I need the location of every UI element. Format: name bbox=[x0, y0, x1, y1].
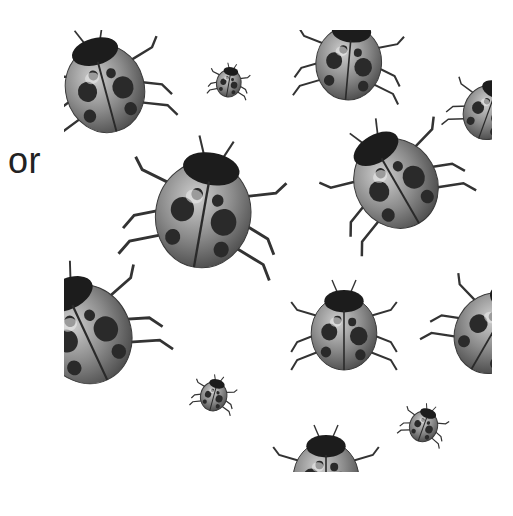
ladybug bbox=[119, 125, 292, 280]
ladybug bbox=[420, 252, 492, 399]
ladybug bbox=[273, 425, 379, 472]
ladybug-pattern bbox=[64, 30, 492, 472]
ladybug bbox=[64, 30, 178, 148]
ladybug bbox=[189, 370, 239, 416]
ladybug bbox=[291, 280, 397, 370]
caption-or: or bbox=[8, 140, 41, 182]
ladybug bbox=[293, 30, 406, 104]
ladybug bbox=[442, 61, 492, 152]
ladybug bbox=[397, 397, 452, 448]
ladybug bbox=[207, 60, 252, 100]
ladybug bbox=[306, 93, 477, 256]
ladybug bbox=[64, 237, 173, 411]
ladybug-pattern-svg bbox=[64, 30, 492, 472]
